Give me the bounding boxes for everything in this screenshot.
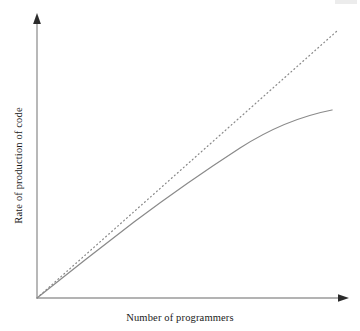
scan-artifact — [335, 0, 357, 4]
chart-figure: Rate of production of code Number of pro… — [0, 0, 360, 331]
y-axis-label: Rate of production of code — [14, 0, 28, 331]
plot-area — [0, 0, 360, 331]
x-axis-label: Number of programmers — [0, 313, 360, 324]
series-ideal-linear — [37, 31, 337, 298]
series-actual-output — [37, 110, 332, 298]
arrow-right-icon — [338, 294, 349, 302]
arrow-up-icon — [33, 13, 41, 24]
